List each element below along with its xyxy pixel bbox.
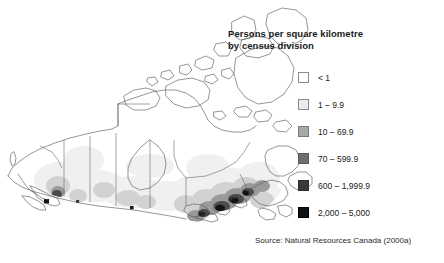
legend-label-10-69: 10 – 69.9 [318, 127, 353, 137]
legend-title-line-2: by census division [228, 40, 314, 51]
legend-label-2000-5000: 2,000 – 5,000 [318, 208, 370, 218]
legend-label-600-1999: 600 – 1,999.9 [318, 181, 370, 191]
legend-swatch-10-69 [298, 126, 309, 137]
legend-label-1-9: 1 – 9.9 [318, 100, 344, 110]
legend-item-list: < 1 1 – 9.9 10 – 69.9 70 – 599.9 600 – 1… [298, 64, 428, 226]
map-legend: Persons per square kilometreby census di… [228, 28, 428, 226]
legend-label-lt1: < 1 [318, 73, 330, 83]
population-density-map-figure: Persons per square kilometreby census di… [0, 0, 444, 263]
legend-item: 1 – 9.9 [298, 91, 428, 118]
legend-swatch-1-9 [298, 99, 309, 110]
legend-item: 600 – 1,999.9 [298, 172, 428, 199]
legend-item: 2,000 – 5,000 [298, 199, 428, 226]
legend-title: Persons per square kilometreby census di… [228, 28, 428, 51]
source-attribution: Source: Natural Resources Canada (2000a) [255, 236, 411, 245]
legend-swatch-2000-5000 [298, 207, 309, 218]
legend-label-70-599: 70 – 599.9 [318, 154, 358, 164]
legend-swatch-lt1 [298, 72, 309, 83]
legend-item: < 1 [298, 64, 428, 91]
legend-item: 10 – 69.9 [298, 118, 428, 145]
legend-swatch-600-1999 [298, 180, 309, 191]
legend-swatch-70-599 [298, 153, 309, 164]
legend-item: 70 – 599.9 [298, 145, 428, 172]
metro-marker-winnipeg [130, 206, 134, 209]
legend-title-line-1: Persons per square kilometre [228, 28, 363, 39]
